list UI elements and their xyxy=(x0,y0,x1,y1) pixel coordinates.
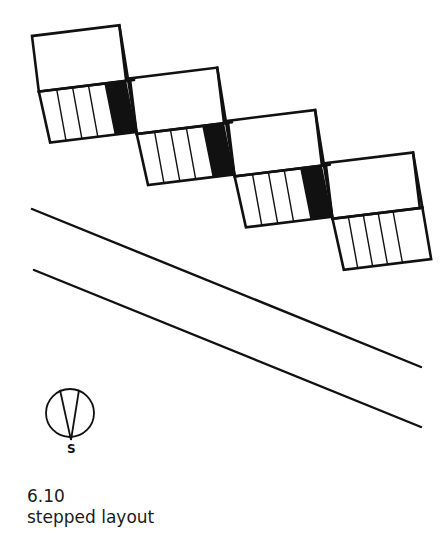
compass-south-label: S xyxy=(67,442,76,456)
dwelling-unit-2 xyxy=(130,67,238,186)
north-arrow-compass-icon xyxy=(46,389,94,440)
stripe xyxy=(57,89,66,141)
stripe xyxy=(88,85,97,137)
road-edge-upper xyxy=(32,209,421,367)
stripe xyxy=(73,87,82,139)
stripe xyxy=(186,128,195,180)
stripe xyxy=(252,174,261,226)
stripe xyxy=(268,172,277,224)
stripe xyxy=(284,170,293,222)
dwelling-unit-1 xyxy=(32,24,140,143)
mid-line xyxy=(333,208,423,219)
figure-caption: 6.10 stepped layout xyxy=(27,486,154,528)
figure-number: 6.10 xyxy=(27,486,154,507)
stripe xyxy=(363,215,372,267)
stripe xyxy=(155,131,164,183)
road xyxy=(32,209,421,427)
stripe xyxy=(393,211,402,263)
dwelling-unit-3 xyxy=(228,109,336,228)
stripe xyxy=(378,213,387,265)
lower-strip-outline xyxy=(326,152,431,271)
stripe xyxy=(348,216,357,268)
stripe xyxy=(170,129,179,181)
stepped-layout-plan xyxy=(0,0,441,544)
figure-title: stepped layout xyxy=(27,507,154,528)
dwelling-units xyxy=(32,0,431,304)
dwelling-unit-4 xyxy=(326,152,431,271)
